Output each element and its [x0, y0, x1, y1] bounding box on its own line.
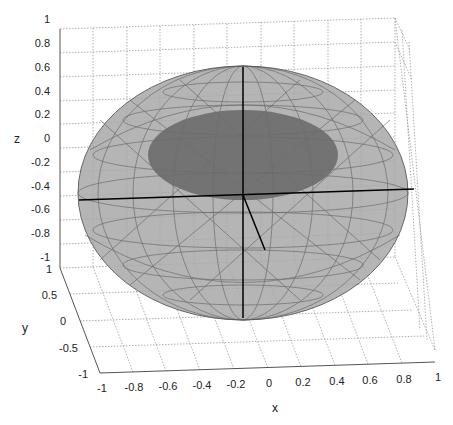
- svg-text:-0.6: -0.6: [31, 203, 50, 215]
- svg-text:-0.8: -0.8: [125, 381, 144, 393]
- svg-text:-0.2: -0.2: [31, 156, 50, 168]
- svg-text:-0.5: -0.5: [59, 342, 78, 354]
- svg-text:-1: -1: [40, 251, 50, 263]
- svg-text:1: 1: [46, 263, 52, 275]
- svg-text:0.6: 0.6: [35, 61, 50, 73]
- svg-text:-1: -1: [78, 368, 88, 380]
- svg-text:-0.4: -0.4: [31, 180, 50, 192]
- svg-text:0: 0: [266, 377, 272, 389]
- svg-text:-0.8: -0.8: [31, 227, 50, 239]
- y-axis-line: [60, 268, 100, 373]
- y-axis-label: y: [22, 321, 28, 335]
- svg-text:-1: -1: [97, 382, 107, 394]
- svg-text:0.5: 0.5: [42, 289, 57, 301]
- svg-text:0: 0: [60, 315, 66, 327]
- svg-text:0.8: 0.8: [35, 37, 50, 49]
- svg-text:1: 1: [44, 13, 50, 25]
- x-axis-line: [100, 362, 435, 373]
- svg-text:0.4: 0.4: [35, 85, 50, 97]
- x-axis-label: x: [272, 401, 278, 415]
- svg-text:-0.4: -0.4: [193, 379, 212, 391]
- svg-text:0.2: 0.2: [35, 108, 50, 120]
- svg-text:-0.2: -0.2: [227, 378, 246, 390]
- svg-text:-0.6: -0.6: [159, 380, 178, 392]
- 3d-plot: 1 0.8 0.6 0.4 0.2 0 -0.2 -0.4 -0.6 -0.8 …: [0, 0, 453, 425]
- svg-text:0: 0: [44, 132, 50, 144]
- svg-text:0.8: 0.8: [396, 373, 411, 385]
- z-ticks: 1 0.8 0.6 0.4 0.2 0 -0.2 -0.4 -0.6 -0.8 …: [31, 13, 50, 263]
- z-axis-label: z: [14, 132, 20, 146]
- svg-text:0.4: 0.4: [329, 375, 344, 387]
- x-ticks: -1 -0.8 -0.6 -0.4 -0.2 0 0.2 0.4 0.6 0.8…: [97, 371, 441, 394]
- svg-text:0.6: 0.6: [362, 374, 377, 386]
- svg-text:0.2: 0.2: [295, 376, 310, 388]
- svg-text:1: 1: [435, 371, 441, 383]
